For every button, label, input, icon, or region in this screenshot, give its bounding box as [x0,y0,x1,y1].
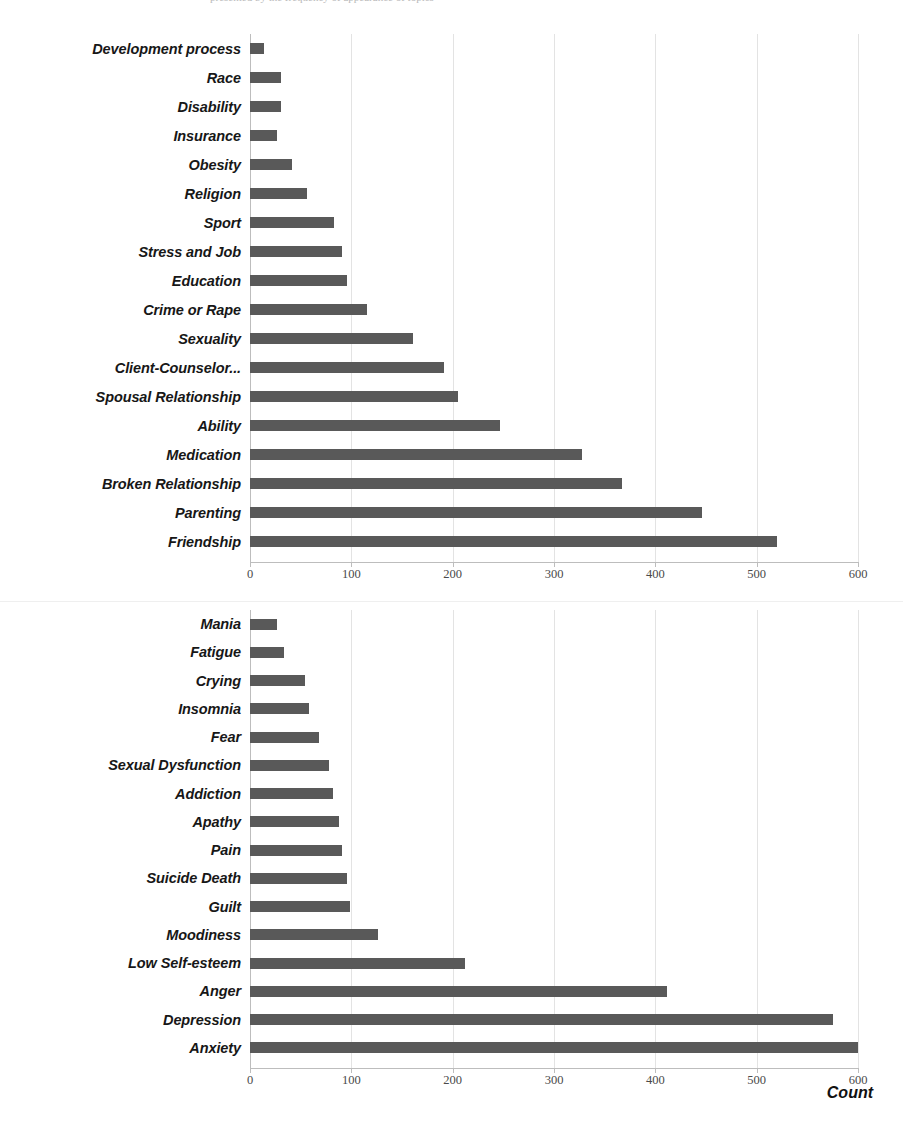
x-tick-label-400: 400 [646,567,665,582]
bar[interactable] [250,43,264,54]
bar[interactable] [250,72,281,83]
bar[interactable] [250,647,284,658]
bar[interactable] [250,362,444,373]
bar-row[interactable]: Fear [250,723,858,751]
category-label: Friendship [168,534,250,550]
bar[interactable] [250,333,413,344]
category-label: Sexual Dysfunction [108,757,250,773]
bar[interactable] [250,449,582,460]
category-label: Depression [163,1012,250,1028]
bar[interactable] [250,275,347,286]
x-tick-label-500: 500 [747,567,766,582]
bar-row[interactable]: Insomnia [250,695,858,723]
bar[interactable] [250,304,367,315]
symptoms-bar-chart: ManiaFatigueCryingInsomniaFearSexual Dys… [0,610,903,1110]
bar-row[interactable]: Race [250,63,858,92]
bar-row[interactable]: Pain [250,836,858,864]
bar-row[interactable]: Crying [250,667,858,695]
topics-bar-chart: Development processRaceDisabilityInsuran… [0,34,903,594]
bar[interactable] [250,703,309,714]
x-tick-label-200: 200 [443,1073,462,1088]
bar[interactable] [250,188,307,199]
bar-row[interactable]: Depression [250,1006,858,1034]
bar[interactable] [250,901,350,912]
bar-row[interactable]: Fatigue [250,638,858,666]
bar-row[interactable]: Stress and Job [250,237,858,266]
bar[interactable] [250,420,500,431]
category-label: Disability [178,99,250,115]
bar-row[interactable]: Moodiness [250,921,858,949]
bar[interactable] [250,101,281,112]
x-tick-label-0: 0 [247,1073,253,1088]
category-label: Anger [200,983,250,999]
bar[interactable] [250,507,702,518]
topics-plot-area: Development processRaceDisabilityInsuran… [250,34,858,594]
bar-row[interactable]: Anxiety [250,1034,858,1062]
bar[interactable] [250,873,347,884]
cut-off-caption: presented by the frequency of appearance… [210,0,770,8]
category-label: Fatigue [190,644,250,660]
bar-row[interactable]: Suicide Death [250,864,858,892]
bar-row[interactable]: Low Self-esteem [250,949,858,977]
category-label: Crying [196,673,250,689]
bar-row[interactable]: Guilt [250,893,858,921]
bar[interactable] [250,391,458,402]
bar[interactable] [250,478,622,489]
bar-row[interactable]: Religion [250,179,858,208]
bar-row[interactable]: Client-Counselor... [250,353,858,382]
category-label: Development process [92,41,250,57]
bar[interactable] [250,130,277,141]
bar[interactable] [250,986,667,997]
bar-row[interactable]: Anger [250,977,858,1005]
bar-row[interactable]: Development process [250,34,858,63]
topics-bar-rows: Development processRaceDisabilityInsuran… [250,34,858,556]
x-axis-title: Count [827,1084,873,1102]
bar-row[interactable]: Insurance [250,121,858,150]
bar-row[interactable]: Friendship [250,527,858,556]
bar-row[interactable]: Crime or Rape [250,295,858,324]
category-label: Low Self-esteem [128,955,250,971]
category-label: Insomnia [178,701,250,717]
bar-row[interactable]: Broken Relationship [250,469,858,498]
bar[interactable] [250,845,342,856]
category-label: Religion [185,186,250,202]
x-tick-label-500: 500 [747,1073,766,1088]
bar[interactable] [250,246,342,257]
symptoms-bar-rows: ManiaFatigueCryingInsomniaFearSexual Dys… [250,610,858,1062]
bar[interactable] [250,732,319,743]
bar[interactable] [250,675,305,686]
bar-row[interactable]: Obesity [250,150,858,179]
bar-row[interactable]: Apathy [250,808,858,836]
bar-row[interactable]: Medication [250,440,858,469]
bar-row[interactable]: Sport [250,208,858,237]
bar[interactable] [250,788,333,799]
bar[interactable] [250,619,277,630]
bar-row[interactable]: Parenting [250,498,858,527]
bar-row[interactable]: Spousal Relationship [250,382,858,411]
bar[interactable] [250,159,292,170]
bar[interactable] [250,760,329,771]
bar[interactable] [250,217,334,228]
x-tick-label-600: 600 [849,567,868,582]
category-label: Guilt [208,899,250,915]
category-label: Ability [197,418,250,434]
category-label: Client-Counselor... [115,360,250,376]
x-tick-label-200: 200 [443,567,462,582]
bar[interactable] [250,929,378,940]
bar-row[interactable]: Sexuality [250,324,858,353]
bar[interactable] [250,1042,858,1053]
bar-row[interactable]: Mania [250,610,858,638]
topics-x-axis-ticks: 0100200300400500600 [250,567,858,587]
bar[interactable] [250,816,339,827]
bar[interactable] [250,536,777,547]
bar-row[interactable]: Disability [250,92,858,121]
bar[interactable] [250,958,465,969]
bar-row[interactable]: Addiction [250,780,858,808]
bar[interactable] [250,1014,833,1025]
category-label: Pain [211,842,250,858]
x-tick-label-400: 400 [646,1073,665,1088]
bar-row[interactable]: Education [250,266,858,295]
bar-row[interactable]: Ability [250,411,858,440]
bar-row[interactable]: Sexual Dysfunction [250,751,858,779]
category-label: Mania [200,616,250,632]
